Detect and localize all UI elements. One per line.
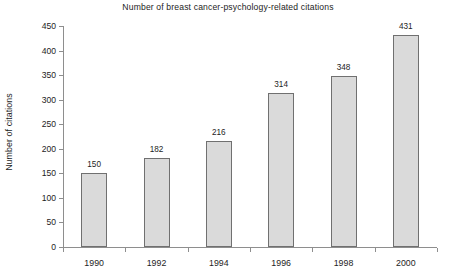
x-tick-label: 1992: [147, 258, 167, 268]
x-tick-label: 1996: [271, 258, 291, 268]
x-tick-label: 1998: [334, 258, 354, 268]
y-tick-mark: [59, 100, 63, 101]
y-tick-label: 100: [42, 193, 56, 203]
y-tick-mark: [59, 51, 63, 52]
x-tick-mark: [312, 248, 313, 252]
y-tick-mark: [59, 222, 63, 223]
bar: [144, 158, 170, 247]
bar-value-label: 182: [150, 145, 164, 154]
y-tick-label: 250: [42, 119, 56, 129]
x-tick-mark: [250, 248, 251, 252]
y-tick-label: 300: [42, 95, 56, 105]
y-tick-mark: [59, 198, 63, 199]
x-tick-mark: [63, 248, 64, 252]
bar: [206, 141, 232, 247]
x-tick-label: 2000: [396, 258, 416, 268]
y-tick-mark: [59, 149, 63, 150]
x-tick-label: 1994: [209, 258, 229, 268]
y-tick-mark: [59, 75, 63, 76]
bar: [331, 76, 357, 247]
x-tick-label: 1990: [84, 258, 104, 268]
bar: [393, 35, 419, 247]
bar-value-label: 216: [212, 128, 226, 137]
y-tick-label: 0: [51, 242, 56, 252]
y-tick-mark: [59, 173, 63, 174]
bar-value-label: 150: [87, 160, 101, 169]
bar-chart-figure: Number of breast cancer-psychology-relat…: [0, 0, 456, 276]
y-tick-label: 50: [46, 217, 56, 227]
y-tick-label: 200: [42, 144, 56, 154]
chart-title: Number of breast cancer-psychology-relat…: [0, 2, 456, 12]
y-axis-title: Number of citations: [4, 14, 22, 250]
y-tick-label: 350: [42, 70, 56, 80]
bar-value-label: 314: [274, 80, 288, 89]
y-tick-mark: [59, 26, 63, 27]
bar-value-label: 348: [337, 63, 351, 72]
x-tick-mark: [437, 248, 438, 252]
y-tick-label: 450: [42, 21, 56, 31]
y-tick-mark: [59, 124, 63, 125]
y-tick-label: 400: [42, 46, 56, 56]
x-tick-mark: [125, 248, 126, 252]
x-tick-mark: [375, 248, 376, 252]
plot-area: 050100150200250300350400450 199019921994…: [63, 26, 437, 248]
x-tick-mark: [188, 248, 189, 252]
bar: [268, 93, 294, 247]
bar: [81, 173, 107, 247]
bar-value-label: 431: [399, 22, 413, 31]
y-tick-label: 150: [42, 168, 56, 178]
y-axis-line: [63, 26, 64, 248]
